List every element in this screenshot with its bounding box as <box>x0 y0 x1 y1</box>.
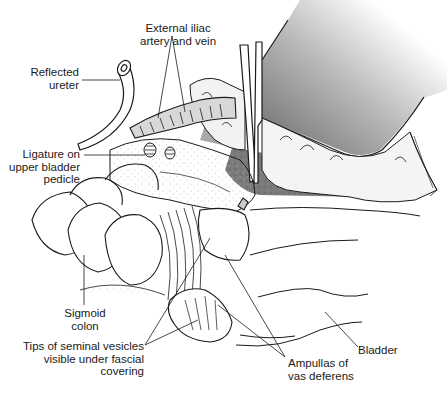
label-reflected-ureter: Reflected ureter <box>22 66 79 91</box>
label-bladder: Bladder <box>358 344 398 357</box>
bladder <box>236 208 420 347</box>
label-seminal-vesicles: Tips of seminal vesicles visible under f… <box>22 340 144 378</box>
label-external-iliac: External iliac artery and vein <box>140 22 216 47</box>
anatomical-illustration: External iliac artery and vein Reflected… <box>0 0 447 395</box>
leader-bladder <box>325 312 358 347</box>
reflected-ureter <box>78 58 134 150</box>
label-ligature: Ligature on upper bladder pedicle <box>5 148 80 186</box>
label-sigmoid-colon: Sigmoid colon <box>60 307 110 332</box>
leader-iliac-1 <box>158 36 172 118</box>
leader-iliac-2 <box>172 36 185 112</box>
label-ampullas: Ampullas of vas deferens <box>288 357 354 382</box>
seminal-vesicles <box>168 198 249 342</box>
illustration-drawing <box>0 0 447 395</box>
leader-ampullas-1 <box>225 255 285 357</box>
